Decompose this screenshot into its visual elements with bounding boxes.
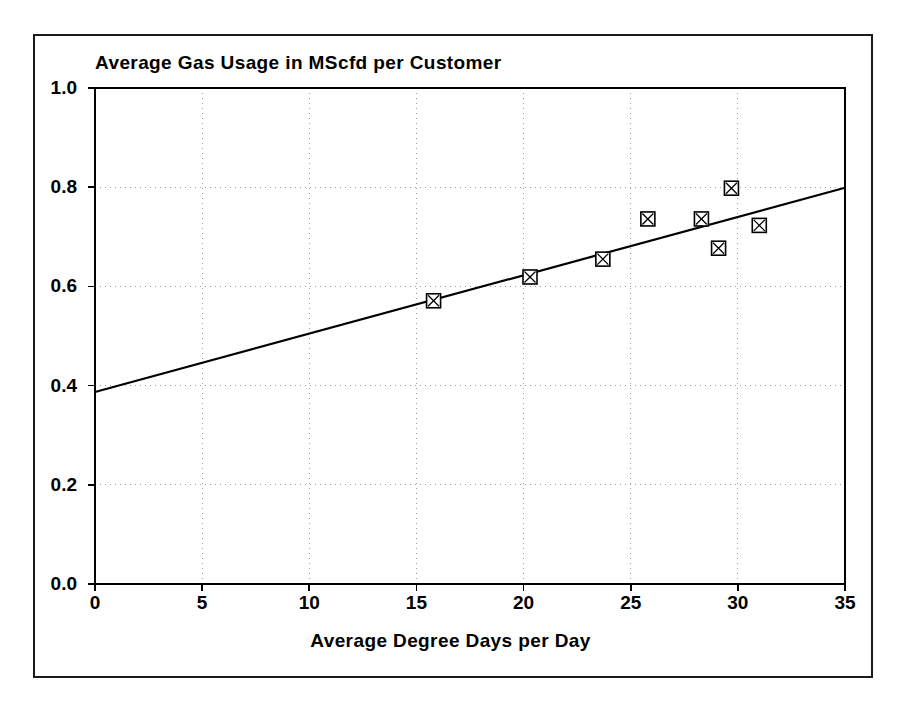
x-tick-label: 5 (172, 592, 232, 614)
x-tick-label: 35 (815, 592, 875, 614)
y-tick-label: 0.4 (17, 375, 77, 397)
tick-marks-group (88, 88, 845, 591)
y-tick-label: 0.8 (17, 176, 77, 198)
data-point-marker (752, 218, 766, 232)
y-tick-label: 1.0 (17, 77, 77, 99)
figure-canvas: Average Gas Usage in MScfd per Customer … (0, 0, 901, 709)
x-tick-label: 20 (494, 592, 554, 614)
data-point-marker (641, 212, 655, 226)
data-point-marker (427, 294, 441, 308)
y-tick-label: 0.6 (17, 275, 77, 297)
data-point-marker (523, 270, 537, 284)
plot-area-border (95, 88, 845, 584)
regression-line-path (95, 188, 845, 392)
x-tick-label: 10 (279, 592, 339, 614)
data-point-marker (724, 181, 738, 195)
data-point-marker (596, 252, 610, 266)
x-tick-label: 25 (601, 592, 661, 614)
chart-title: Average Gas Usage in MScfd per Customer (95, 52, 502, 74)
x-tick-label: 15 (386, 592, 446, 614)
data-point-marker (694, 212, 708, 226)
y-tick-label: 0.2 (17, 474, 77, 496)
data-point-marker (712, 241, 726, 255)
x-tick-label: 0 (65, 592, 125, 614)
regression-line (95, 188, 845, 392)
x-axis-title: Average Degree Days per Day (310, 630, 590, 652)
x-tick-label: 30 (708, 592, 768, 614)
plot-area-rect (95, 88, 845, 584)
gridlines-group (95, 88, 845, 584)
